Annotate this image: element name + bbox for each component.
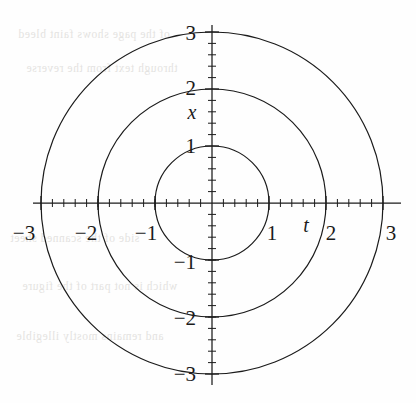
x-tick-label-pos3: 3: [386, 221, 397, 245]
axis-name-x-vertical: x: [187, 101, 197, 123]
y-tick-label-neg2: −2: [174, 306, 196, 330]
y-tick-label-pos2: 2: [186, 76, 197, 100]
x-tick-label-pos2: 2: [326, 221, 337, 245]
x-tick-label-neg2: −2: [75, 221, 97, 245]
x-tick-label-neg3: −3: [13, 221, 35, 245]
x-tick-label-neg1: −1: [135, 221, 157, 245]
y-tick-label-neg1: −1: [174, 250, 196, 274]
axis-name-t-horizontal: t: [303, 214, 309, 236]
plot-canvas: −3 −2 −1 1 2 3 3 2 1 −1 −2 −3 x t: [0, 0, 416, 403]
y-tick-label-pos3: 3: [186, 21, 197, 45]
x-tick-label-pos1: 1: [267, 221, 278, 245]
y-tick-label-neg3: −3: [174, 362, 196, 386]
axes-group: [33, 25, 401, 385]
figure-container: of the page shows faint bleed through te…: [0, 0, 416, 403]
y-tick-label-pos1: 1: [186, 134, 197, 158]
